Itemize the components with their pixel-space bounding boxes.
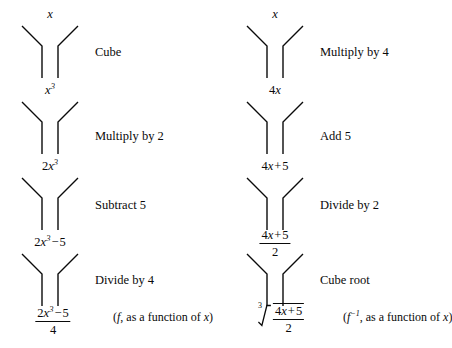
expression-4x-plus-5: 4x+5 (261, 160, 288, 173)
expression-final-f-inverse: 3 4x+5 2 (258, 303, 304, 335)
funnel-shape-icon (20, 176, 80, 232)
funnel-shape-icon (20, 252, 80, 308)
inverse-function-column: x Multiply by 4 4x Add 5 4x+ (225, 0, 449, 348)
fraction-numerator: 4x+5 (259, 228, 290, 244)
fraction: 2x3−5 4 (35, 306, 70, 337)
funnel-connector (245, 252, 305, 308)
fraction: 4x+5 2 (273, 304, 304, 335)
funnel-connector (245, 24, 305, 80)
step-label-add-5: Add 5 (320, 130, 351, 143)
funnel-shape-icon (20, 100, 80, 156)
funnel-shape-icon (20, 24, 80, 80)
step-label-cube: Cube (95, 46, 121, 59)
fraction-numerator: 2x3−5 (35, 306, 70, 322)
annotation-forward-function: (f, as a function of x) (113, 311, 213, 323)
funnel-connector (245, 100, 305, 156)
funnel-connector (20, 252, 80, 308)
expression-2x-cubed-minus-5: 2x3−5 (34, 236, 65, 249)
funnel-connector (20, 100, 80, 156)
expression-x: x (47, 8, 53, 21)
funnel-connector (20, 24, 80, 80)
radical-sign-icon (258, 304, 271, 334)
funnel-connector (20, 176, 80, 232)
fraction-denominator: 2 (273, 320, 304, 335)
step-label-divide-by-2: Divide by 2 (320, 199, 379, 212)
cube-root-radical: 3 4x+5 2 (258, 303, 304, 335)
expression-final-f: 2x3−5 4 (35, 306, 70, 337)
funnel-connector (245, 176, 305, 232)
funnel-shape-icon (245, 252, 305, 308)
expression-2x-cubed: 2x3 (42, 160, 58, 173)
funnel-shape-icon (245, 176, 305, 232)
step-label-cube-root: Cube root (320, 274, 370, 287)
annotation-inverse-function: (f−1, as a function of x) (343, 311, 452, 323)
funnel-shape-icon (245, 24, 305, 80)
fraction-numerator: 4x+5 (273, 304, 304, 320)
step-label-subtract-5: Subtract 5 (95, 199, 146, 212)
expression-x-cubed: x3 (45, 84, 55, 97)
step-label-divide-by-4: Divide by 4 (95, 274, 154, 287)
funnel-shape-icon (245, 100, 305, 156)
forward-function-column: x Cube x3 Multiply by 2 2x3 (0, 0, 224, 348)
step-label-multiply-by-2: Multiply by 2 (95, 130, 164, 143)
fraction-denominator: 4 (35, 322, 70, 337)
expression-4x: 4x (269, 84, 281, 97)
radicand: 4x+5 2 (273, 303, 304, 335)
step-label-multiply-by-4: Multiply by 4 (320, 46, 389, 59)
expression-x: x (272, 8, 278, 21)
